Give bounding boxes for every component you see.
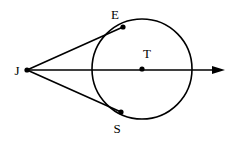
point-dot-s <box>118 109 123 114</box>
tangent-segment-js <box>27 70 121 112</box>
point-label-j: J <box>14 63 19 78</box>
point-dot-j <box>24 67 29 72</box>
tangent-segment-je <box>27 27 123 70</box>
point-dot-t <box>139 66 144 71</box>
arrow-head-icon <box>212 66 225 74</box>
geometry-canvas: J E T S <box>0 0 235 141</box>
point-label-e: E <box>111 7 119 22</box>
point-label-s: S <box>113 121 120 136</box>
point-label-t: T <box>143 46 151 61</box>
geometry-figure: J E T S <box>0 0 235 141</box>
point-dot-e <box>120 24 125 29</box>
